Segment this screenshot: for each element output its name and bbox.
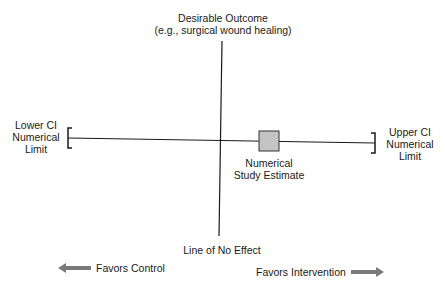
lower-ci-line2: Numerical <box>10 131 62 143</box>
favors-intervention-label: Favors Intervention <box>256 266 346 278</box>
forest-plot-diagram <box>0 0 445 285</box>
upper-ci-line3: Limit <box>382 150 438 162</box>
favors-control-label: Favors Control <box>96 262 165 274</box>
arrow-right-icon <box>351 267 384 277</box>
upper-ci-label: Upper CI Numerical Limit <box>382 126 438 162</box>
lower-ci-line3: Limit <box>10 143 62 155</box>
study-estimate-label: Numerical Study Estimate <box>228 157 310 181</box>
upper-ci-line2: Numerical <box>382 138 438 150</box>
study-estimate-square <box>259 131 279 151</box>
study-estimate-line2: Study Estimate <box>228 169 310 181</box>
confidence-interval-line <box>68 138 375 143</box>
arrow-left-icon <box>58 263 91 273</box>
desirable-outcome-title: Desirable Outcome <box>150 12 296 24</box>
lower-ci-label: Lower CI Numerical Limit <box>10 119 62 155</box>
line-of-no-effect <box>219 41 222 236</box>
desirable-outcome-label: Desirable Outcome (e.g., surgical wound … <box>150 12 296 36</box>
lower-ci-line1: Lower CI <box>10 119 62 131</box>
desirable-outcome-example: (e.g., surgical wound healing) <box>150 24 296 36</box>
study-estimate-line1: Numerical <box>228 157 310 169</box>
upper-ci-line1: Upper CI <box>382 126 438 138</box>
no-effect-label: Line of No Effect <box>172 244 272 256</box>
